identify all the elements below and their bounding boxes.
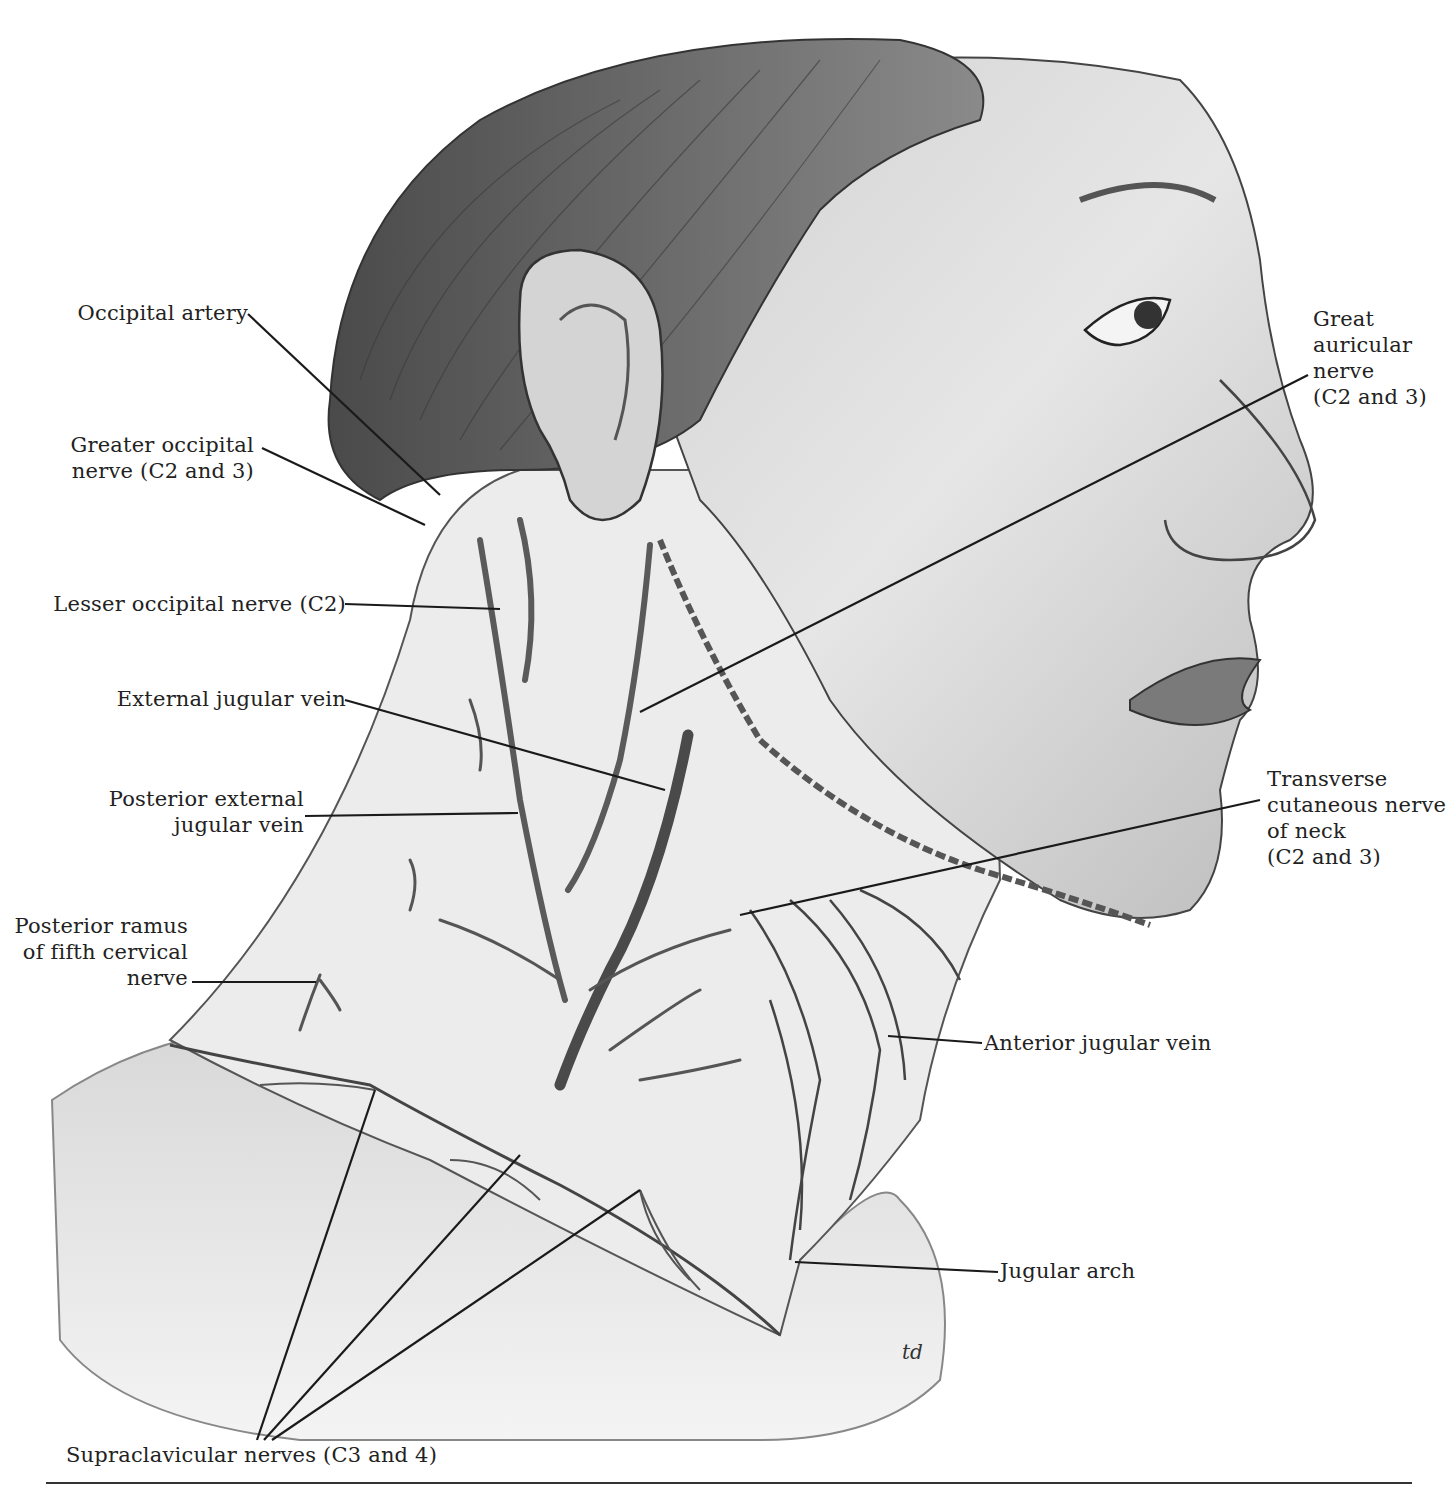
- label-supraclavicular-nerves: Supraclavicular nerves (C3 and 4): [66, 1442, 437, 1468]
- label-occipital-artery: Occipital artery: [78, 300, 249, 326]
- bottom-rule: [46, 1482, 1412, 1484]
- label-posterior-external-jugular-vein: Posterior external jugular vein: [109, 786, 304, 838]
- label-anterior-jugular-vein: Anterior jugular vein: [984, 1030, 1211, 1056]
- anatomical-illustration: [0, 0, 1446, 1493]
- artist-signature: td: [902, 1340, 923, 1364]
- label-external-jugular-vein: External jugular vein: [117, 686, 346, 712]
- label-transverse-cutaneous-nerve: Transverse cutaneous nerve of neck (C2 a…: [1267, 766, 1446, 870]
- label-posterior-ramus-c5: Posterior ramus of fifth cervical nerve: [15, 913, 188, 991]
- label-greater-occipital-nerve: Greater occipital nerve (C2 and 3): [71, 432, 254, 484]
- label-lesser-occipital-nerve: Lesser occipital nerve (C2): [53, 591, 346, 617]
- label-great-auricular-nerve: Great auricular nerve (C2 and 3): [1313, 306, 1427, 410]
- label-jugular-arch: Jugular arch: [1000, 1258, 1135, 1284]
